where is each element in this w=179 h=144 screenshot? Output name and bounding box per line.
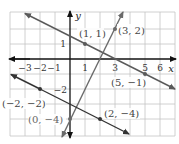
- x-tick-label: 1: [82, 63, 88, 73]
- point-1-1: [83, 42, 87, 46]
- label-neg2-neg2: (−2, −2): [2, 98, 46, 109]
- point-neg2-neg2: [38, 87, 42, 91]
- point-2-neg4: [98, 117, 102, 121]
- coordinate-plane: −3 −2 −1 1 3 5 6 x 1 −2 y (1, 1) (3, 2): [0, 0, 179, 144]
- x-tick-label: 3: [112, 63, 118, 73]
- x-tick-label: −1: [47, 63, 60, 73]
- label-3-2: (3, 2): [118, 25, 145, 36]
- point-3-2: [113, 27, 117, 31]
- x-tick-label: −3: [18, 63, 32, 73]
- y-tick-label: −2: [54, 85, 67, 95]
- x-tick-label: 5: [142, 63, 148, 73]
- x-tick-labels: −3 −2 −1 1 3 5 6 x: [18, 63, 174, 74]
- point-5-neg1: [143, 72, 147, 76]
- x-tick-label: 6: [157, 63, 163, 73]
- y-tick-labels: 1 −2 y: [54, 10, 81, 95]
- label-1-1: (1, 1): [79, 28, 106, 39]
- label-0-neg4: (0, −4): [28, 114, 63, 125]
- label-2-neg4: (2, −4): [104, 108, 139, 119]
- x-tick-label: −2: [33, 63, 46, 73]
- y-tick-label: 1: [60, 39, 66, 49]
- label-5-neg1: (5, −1): [111, 77, 146, 88]
- point-0-neg4: [68, 117, 72, 121]
- x-axis-label: x: [168, 63, 174, 74]
- y-axis-label: y: [74, 10, 81, 21]
